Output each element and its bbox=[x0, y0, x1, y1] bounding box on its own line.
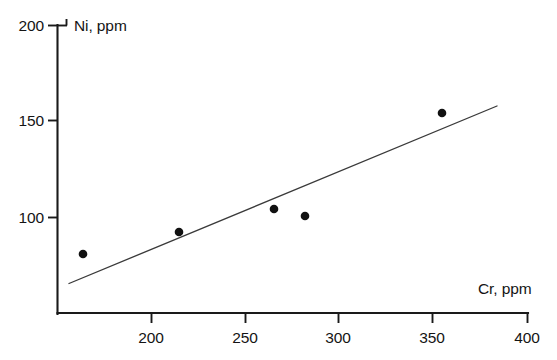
trend-line bbox=[69, 106, 497, 284]
x-tick-label-200: 200 bbox=[138, 329, 164, 346]
x-axis-title: Cr, ppm bbox=[478, 280, 532, 297]
data-point bbox=[438, 109, 447, 118]
x-tick-label-300: 300 bbox=[325, 329, 351, 346]
chart-figure: 200 150 100 200 250 300 350 400 Ni, ppm … bbox=[0, 0, 557, 360]
data-point bbox=[175, 228, 184, 237]
y-tick-label-100: 100 bbox=[18, 209, 44, 226]
x-tick-label-350: 350 bbox=[419, 329, 445, 346]
x-tick-label-400: 400 bbox=[514, 329, 540, 346]
scatter-plot-canvas: 200 150 100 200 250 300 350 400 Ni, ppm … bbox=[0, 0, 557, 360]
data-point bbox=[79, 250, 88, 259]
y-tick-label-150: 150 bbox=[18, 112, 44, 129]
x-tick-label-250: 250 bbox=[232, 329, 258, 346]
y-tick-label-200: 200 bbox=[18, 17, 44, 34]
y-axis-title: Ni, ppm bbox=[74, 17, 127, 34]
data-point bbox=[301, 212, 310, 221]
data-point bbox=[270, 205, 279, 214]
